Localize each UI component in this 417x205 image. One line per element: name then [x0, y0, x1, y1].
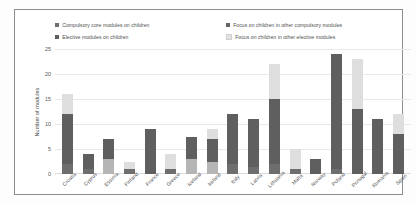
bar-column[interactable]: [78, 49, 99, 174]
y-axis-title: Number of modules: [32, 49, 42, 174]
bar-column[interactable]: [388, 49, 409, 174]
bar-segment: [372, 119, 383, 174]
legend-label-elective: Elective modules on children: [62, 34, 128, 40]
legend-item-elective[interactable]: Elective modules on children: [55, 34, 128, 40]
bar-column[interactable]: [57, 49, 78, 174]
stacked-bar[interactable]: [62, 94, 73, 174]
stacked-bar[interactable]: [269, 64, 280, 174]
legend-item-focus-elective[interactable]: Focus on children in other elective modu…: [226, 34, 335, 40]
y-axis-tick: 0: [35, 171, 51, 177]
x-axis-label: Croatia: [57, 176, 78, 205]
bar-segment: [248, 119, 259, 167]
bar-segment: [331, 54, 342, 169]
x-axis-label: Romania: [368, 176, 389, 205]
bar-column[interactable]: [140, 49, 161, 174]
legend-swatch-focus-compulsory-icon: [226, 23, 230, 27]
x-axis-label: Spain: [388, 176, 409, 205]
x-axis-label-text: Italy: [230, 174, 241, 185]
bar-segment: [124, 162, 135, 170]
legend-label-focus-compulsory: Focus on children in other compulsory mo…: [233, 22, 342, 28]
stacked-bar[interactable]: [103, 139, 114, 174]
x-axis-label-text: Latvia: [249, 172, 263, 186]
stacked-bar[interactable]: [145, 129, 156, 174]
bar-group: [55, 49, 411, 174]
chart-frame: Compulsory core modules on children Elec…: [14, 9, 403, 195]
bar-segment: [145, 129, 156, 174]
bar-segment: [103, 139, 114, 159]
bar-column[interactable]: [202, 49, 223, 174]
bar-column[interactable]: [264, 49, 285, 174]
bar-column[interactable]: [305, 49, 326, 174]
y-axis-tick: 15: [35, 96, 51, 102]
legend-swatch-focus-elective-icon: [226, 34, 232, 40]
bar-segment: [269, 99, 280, 164]
stacked-bar[interactable]: [227, 114, 238, 174]
stacked-bar[interactable]: [165, 154, 176, 174]
bar-segment: [186, 137, 197, 160]
y-axis-tick: 25: [35, 46, 51, 52]
x-axis-label: Lithuania: [264, 176, 285, 205]
bar-segment: [207, 139, 218, 162]
bar-column[interactable]: [347, 49, 368, 174]
legend-swatch-compulsory-core-icon: [55, 23, 59, 27]
stacked-bar[interactable]: [186, 137, 197, 175]
stacked-bar[interactable]: [207, 129, 218, 174]
bar-column[interactable]: [98, 49, 119, 174]
bar-column[interactable]: [161, 49, 182, 174]
x-axis-label: France: [140, 176, 161, 205]
x-axis-label: Greece: [161, 176, 182, 205]
x-axis-label-text: Spain: [394, 172, 408, 186]
x-axis-labels: CroatiaCyprusEstoniaFinlandFranceGreeceI…: [55, 176, 411, 205]
stacked-bar[interactable]: [393, 114, 404, 174]
x-axis-label-text: Malta: [291, 173, 304, 186]
bar-segment: [83, 154, 94, 169]
chart-page: Compulsory core modules on children Elec…: [0, 0, 417, 205]
y-axis-title-text: Number of modules: [34, 87, 40, 136]
x-axis-label: Malta: [285, 176, 306, 205]
stacked-bar[interactable]: [290, 149, 301, 174]
legend-label-compulsory-core: Compulsory core modules on children: [62, 22, 149, 28]
bar-column[interactable]: [119, 49, 140, 174]
bar-segment: [62, 94, 73, 114]
bar-segment: [352, 59, 363, 109]
bar-segment: [227, 114, 238, 164]
legend-swatch-elective-icon: [55, 35, 59, 39]
x-axis-label: Portugal: [347, 176, 368, 205]
stacked-bar[interactable]: [372, 119, 383, 174]
bar-column[interactable]: [181, 49, 202, 174]
y-axis-tick: 5: [35, 146, 51, 152]
stacked-bar[interactable]: [83, 154, 94, 174]
x-axis-label: Cyprus: [78, 176, 99, 205]
legend-item-compulsory-core[interactable]: Compulsory core modules on children: [55, 22, 149, 28]
bar-segment: [393, 134, 404, 174]
x-axis-label: Poland: [326, 176, 347, 205]
legend-label-focus-elective: Focus on children in other elective modu…: [235, 34, 335, 40]
bar-segment: [352, 109, 363, 174]
stacked-bar[interactable]: [352, 59, 363, 174]
bar-column[interactable]: [368, 49, 389, 174]
x-axis-label: Latvia: [243, 176, 264, 205]
bar-segment: [269, 64, 280, 99]
legend-item-focus-compulsory[interactable]: Focus on children in other compulsory mo…: [226, 22, 342, 28]
bar-column[interactable]: [223, 49, 244, 174]
bar-column[interactable]: [326, 49, 347, 174]
stacked-bar[interactable]: [248, 119, 259, 174]
x-axis-label: Italy: [223, 176, 244, 205]
bar-segment: [290, 149, 301, 169]
bar-segment: [62, 114, 73, 164]
x-axis-label: Norway: [305, 176, 326, 205]
x-axis-label: Estonia: [98, 176, 119, 205]
y-axis-tick: 10: [35, 121, 51, 127]
bar-column[interactable]: [243, 49, 264, 174]
bar-segment: [393, 114, 404, 134]
chart-legend: Compulsory core modules on children Elec…: [41, 22, 411, 48]
bar-segment: [165, 154, 176, 169]
bar-segment: [207, 129, 218, 139]
x-axis-label: Ireland: [202, 176, 223, 205]
bar-column[interactable]: [285, 49, 306, 174]
x-axis-label: Iceland: [181, 176, 202, 205]
y-axis-tick: 20: [35, 71, 51, 77]
plot-area: 0510152025: [55, 49, 411, 174]
stacked-bar[interactable]: [331, 54, 342, 174]
x-axis-label: Finland: [119, 176, 140, 205]
